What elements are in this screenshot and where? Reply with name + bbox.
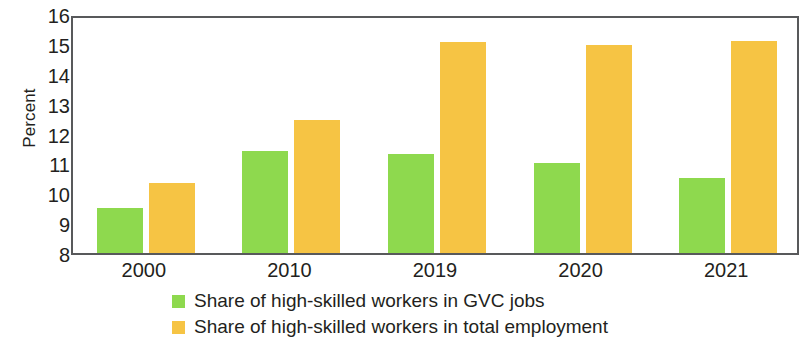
y-axis-tick-label: 9 [30, 215, 70, 235]
x-axis-tick-labels: 20002010201920202021 [71, 258, 799, 288]
legend-item: Share of high-skilled workers in GVC job… [172, 288, 792, 314]
x-axis-tick-label: 2021 [704, 258, 749, 282]
y-axis-tick-label: 12 [30, 126, 70, 146]
bar-group [242, 18, 340, 253]
bar [97, 208, 143, 253]
bar-group [679, 18, 777, 253]
y-axis-tick-label: 16 [30, 6, 70, 26]
x-axis-tick-label: 2019 [413, 258, 458, 282]
bar-chart: Percent 8910111213141516 200020102019202… [0, 0, 808, 345]
legend-item: Share of high-skilled workers in total e… [172, 314, 792, 340]
bar [388, 154, 434, 253]
bar [586, 45, 632, 253]
bar-group [388, 18, 486, 253]
bar-group [97, 18, 195, 253]
bars-layer [73, 18, 797, 253]
y-axis-tick-label: 8 [30, 245, 70, 265]
y-axis-tick-label: 14 [30, 66, 70, 86]
plot-area [71, 16, 799, 255]
legend-swatch-green [172, 295, 185, 308]
bar [731, 41, 777, 253]
bar [149, 183, 195, 253]
y-axis-tick-label: 13 [30, 96, 70, 116]
x-axis-tick-label: 2010 [267, 258, 312, 282]
chart-legend: Share of high-skilled workers in GVC job… [172, 288, 792, 340]
bar [534, 163, 580, 253]
y-axis-tick-label: 11 [30, 155, 70, 175]
legend-swatch-orange [172, 321, 185, 334]
y-axis-tick-labels: 8910111213141516 [30, 0, 70, 345]
bar [679, 178, 725, 253]
bar [440, 42, 486, 253]
legend-label: Share of high-skilled workers in total e… [194, 316, 608, 338]
y-axis-tick-label: 10 [30, 185, 70, 205]
x-axis-tick-label: 2000 [122, 258, 167, 282]
x-axis-tick-label: 2020 [558, 258, 603, 282]
bar-group [534, 18, 632, 253]
bar [242, 151, 288, 253]
bar [294, 120, 340, 253]
y-axis-tick-label: 15 [30, 36, 70, 56]
legend-label: Share of high-skilled workers in GVC job… [194, 290, 545, 312]
